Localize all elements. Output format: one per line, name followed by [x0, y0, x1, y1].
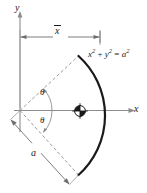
radius-a-dimension-line-lower	[41, 153, 69, 184]
radius-upper-dashed	[20, 56, 79, 111]
xbar-arrow-left-icon	[20, 35, 27, 39]
centroid-marker	[72, 103, 88, 119]
theta-upper-label: θ	[40, 88, 44, 97]
x-axis-label: x	[134, 104, 138, 114]
equation-a-exponent: 2	[126, 47, 129, 54]
equation-equals-operator: =	[112, 49, 122, 59]
xbar-dimension-group	[20, 30, 100, 108]
equation-plus-operator: +	[95, 49, 105, 59]
geometry-diagram-svg	[0, 0, 147, 193]
xbar-arrow-right-icon	[94, 35, 101, 39]
radius-a-extension-end	[70, 175, 79, 185]
centroid-quadrant-lower-right	[80, 111, 85, 116]
y-axis-label: y	[15, 3, 19, 13]
xbar-dimension-label: x	[55, 26, 59, 36]
theta-lower-label: θ	[40, 116, 44, 125]
radius-a-extension-origin	[11, 111, 21, 120]
radius-a-label: a	[31, 148, 36, 158]
figure-container: y x x θ θ a x2 + y2 = a2	[0, 0, 147, 193]
circle-equation-label: x2 + y2 = a2	[88, 48, 129, 59]
radius-lower-dashed	[20, 111, 79, 176]
sector-radii-group	[20, 56, 79, 175]
axes-group	[14, 11, 135, 132]
radius-a-dimension-group	[11, 111, 79, 185]
centroid-quadrant-upper-left	[75, 106, 80, 111]
